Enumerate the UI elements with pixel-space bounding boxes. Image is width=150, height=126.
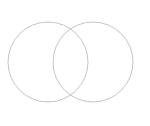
diagram-background (0, 0, 150, 126)
venn-diagram-canvas (0, 0, 150, 126)
venn-diagram-svg (0, 0, 150, 126)
